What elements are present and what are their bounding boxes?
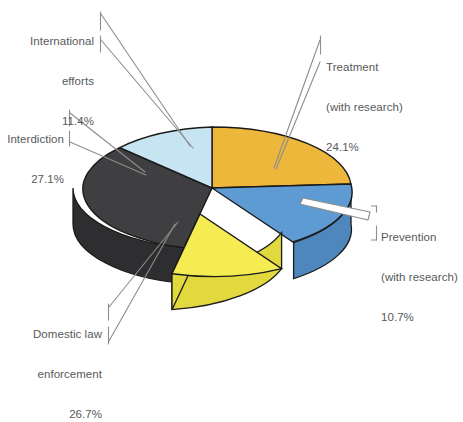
label-treatment: Treatment (with research) 24.1% (326, 34, 456, 181)
label-domestic-percent: 26.7% (0, 408, 102, 421)
label-prevention-line1: Prevention (381, 231, 463, 244)
label-interdiction-percent: 27.1% (0, 173, 64, 186)
label-interdiction: Interdiction 27.1% (0, 106, 64, 213)
label-domestic-line2: enforcement (0, 368, 102, 381)
label-domestic-law-enforcement: Domestic law enforcement 26.7% (0, 301, 102, 422)
label-treatment-line2: (with research) (326, 101, 456, 114)
leader-line-international-efforts-a (101, 14, 190, 146)
label-treatment-line1: Treatment (326, 61, 456, 74)
label-international-efforts-line2: efforts (0, 75, 94, 88)
label-treatment-percent: 24.1% (326, 141, 456, 154)
label-interdiction-line1: Interdiction (0, 133, 64, 146)
label-international-efforts-line1: International (0, 35, 94, 48)
label-prevention-line2: (with research) (381, 271, 463, 284)
label-prevention: Prevention (with research) 10.7% (381, 204, 463, 351)
label-prevention-percent: 10.7% (381, 311, 463, 324)
label-domestic-line1: Domestic law (0, 328, 102, 341)
leader-line-international-efforts-b (101, 40, 193, 148)
